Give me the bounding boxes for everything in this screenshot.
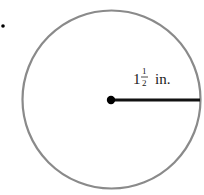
label-denominator: 2 [142, 78, 147, 88]
bullet-marker [1, 24, 5, 28]
label-unit: in. [155, 71, 170, 87]
radius-label: 1 1 2 in. [133, 66, 170, 88]
circle-diagram: 1 1 2 in. [0, 0, 204, 195]
label-whole: 1 [133, 71, 141, 87]
label-numerator: 1 [142, 66, 147, 76]
center-point [107, 96, 115, 104]
